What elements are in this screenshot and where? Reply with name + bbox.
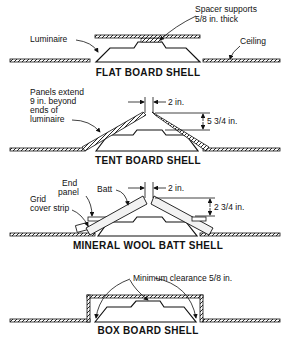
batt-label: Batt [97,184,113,194]
gap-label: 2 in. [168,183,184,193]
ceiling-left [10,319,90,322]
panel-title: TENT BOARD SHELL [95,155,201,166]
flat-board [95,35,200,38]
flat-board-shell-panel: Luminaire Spacer supports 5/8 in. thick … [10,4,280,78]
panels-label-4: luminaire [30,114,65,124]
ceiling-left [10,59,90,62]
ceiling-right [203,319,280,322]
height-label: 2 3/4 in. [214,202,244,212]
luminaire-outline [95,301,196,322]
ceiling-right [203,148,280,151]
ceiling-label: Ceiling [240,36,266,46]
panel-title: MINERAL WOOL BATT SHELL [73,240,223,251]
batt-left [86,196,147,235]
ceiling-right [200,233,280,236]
end-panel-right [192,217,206,221]
height-label: 5 3/4 in. [207,116,237,126]
end-panel-label-2: panel [58,187,79,197]
ceiling-right [203,59,280,62]
mineral-wool-batt-shell-panel: 2 in. 2 3/4 in. End panel Batt Grid cove… [10,178,280,251]
box-side-left [87,295,90,322]
luminaire-outline [96,42,200,62]
batt-right [151,196,213,235]
tent-panel-right [152,112,209,151]
box-side-right [200,295,203,322]
gap-label: 2 in. [168,97,184,107]
spacer-label-1: Spacer supports [195,4,257,14]
shell-diagram: Luminaire Spacer supports 5/8 in. thick … [0,0,288,342]
spacer-support [141,38,161,42]
ceiling-left [10,233,95,236]
tent-board-shell-panel: 2 in. 5 3/4 in. Panels extend 9 in. beyo… [10,87,280,166]
luminaire-label: Luminaire [30,34,68,44]
panel-title: BOX BOARD SHELL [97,325,198,336]
panel-title: FLAT BOARD SHELL [96,67,201,78]
grid-label-2: cover strip [30,203,69,213]
box-board-shell-panel: Minimum clearance 5/8 in. BOX BOARD SHEL… [10,273,280,336]
ceiling-left [10,148,85,151]
spacer-label-2: 5/8 in. thick [195,14,239,24]
clearance-label: Minimum clearance 5/8 in. [133,273,232,283]
